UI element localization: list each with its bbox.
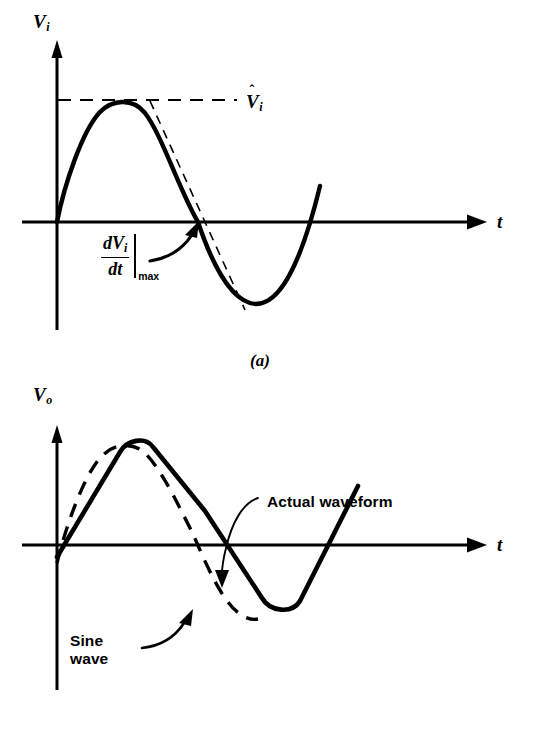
panel-a-evaluation-bar-icon <box>134 234 136 278</box>
panel-a-derivative-numerator: dVi <box>101 233 129 257</box>
panel-a-caption: (a) <box>250 352 270 369</box>
panel-a-x-axis <box>22 215 487 230</box>
panel-b-y-axis-label-text: V <box>33 384 46 405</box>
panel-a-derivative-fraction: dVi dt <box>101 233 129 280</box>
panel-b-y-axis-label: Vo <box>33 385 52 406</box>
panel-b-plot <box>0 375 534 750</box>
panel-a-derivative-denominator: dt <box>106 258 124 279</box>
panel-b: Vo t Actual waveform Sine wave (b) <box>0 375 534 750</box>
panel-a-derivative-label: dVi dt max <box>101 233 159 280</box>
panel-a: Vi t ˆVi dVi dt max (a) <box>0 0 534 395</box>
panel-b-actual-waveform-annotation: Actual waveform <box>267 494 393 510</box>
panel-a-peak-amplitude-label: ˆVi <box>246 92 263 113</box>
panel-a-y-axis-label-text: V <box>33 11 46 32</box>
panel-a-y-axis <box>52 40 63 330</box>
panel-a-y-axis-label: Vi <box>33 12 50 33</box>
panel-a-derivative-evaluated-at: max <box>138 270 159 282</box>
panel-a-derivative-numerator-text: dV <box>103 233 124 253</box>
panel-b-x-axis-label: t <box>497 535 502 554</box>
panel-b-x-axis <box>22 538 487 553</box>
panel-b-sine-wave-annotation: Sine wave <box>70 632 108 669</box>
panel-a-x-axis-label: t <box>497 212 502 231</box>
panel-b-x-axis-label-text: t <box>497 534 502 555</box>
panel-b-y-axis-label-subscript: o <box>46 393 52 407</box>
panel-b-sine-wave-leader <box>142 609 193 648</box>
circumflex-accent-icon: ˆ <box>249 83 254 98</box>
panel-a-x-axis-label-text: t <box>497 211 502 232</box>
panel-a-y-axis-label-subscript: i <box>46 20 49 34</box>
panel-b-sine-wave-annotation-line1: Sine <box>70 632 108 650</box>
panel-a-peak-v-hat: ˆV <box>246 92 259 111</box>
panel-b-sine-wave-annotation-line2: wave <box>70 650 108 668</box>
panel-b-sine-wave-dashed <box>57 446 258 620</box>
panel-a-plot <box>0 0 534 395</box>
figure-root: Vi t ˆVi dVi dt max (a) <box>0 0 534 750</box>
panel-a-derivative-numerator-subscript: i <box>124 241 127 255</box>
panel-a-peak-label-subscript: i <box>259 100 262 114</box>
panel-b-actual-waveform <box>57 441 358 610</box>
panel-a-max-slope-tangent <box>150 101 245 310</box>
panel-a-input-sine-waveform <box>57 102 320 304</box>
panel-b-actual-waveform-leader <box>215 498 258 588</box>
